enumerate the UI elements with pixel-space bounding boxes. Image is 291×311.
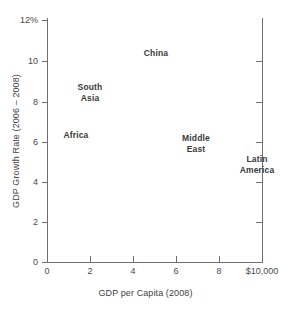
right-tick-mark-5 xyxy=(256,61,262,62)
y-tick-mark-4 xyxy=(42,102,47,103)
x-tick-label-5: $10,000 xyxy=(246,266,279,276)
right-tick-mark-1 xyxy=(256,222,262,223)
x-tick-mark-5 xyxy=(262,256,263,262)
right-axis-spine xyxy=(262,18,263,263)
y-tick-label-1: 2 xyxy=(33,218,38,227)
y-tick-label-3: 6 xyxy=(33,138,38,147)
x-axis-title: GDP per Capita (2008) xyxy=(0,288,291,298)
x-tick-label-0: 0 xyxy=(44,266,49,276)
data-label-africa: Africa xyxy=(64,130,89,141)
data-label-south-asia: South Asia xyxy=(78,82,103,103)
y-tick-label-6: 12% xyxy=(20,16,38,25)
right-tick-mark-3 xyxy=(256,142,262,143)
x-tick-mark-4 xyxy=(219,256,220,262)
y-tick-mark-6 xyxy=(42,20,47,21)
y-tick-label-2: 4 xyxy=(33,178,38,187)
y-axis-title: GDP Growth Rate (2006 – 2008) xyxy=(11,41,21,241)
y-tick-mark-0 xyxy=(42,262,47,263)
y-tick-label-5: 10 xyxy=(28,57,38,66)
x-tick-label-2: 4 xyxy=(130,266,135,276)
y-tick-mark-2 xyxy=(42,182,47,183)
y-tick-mark-5 xyxy=(42,61,47,62)
scatter-chart: 0 2 4 6 8 10 12% 0 2 4 6 8 $10,000 Afric… xyxy=(0,0,291,311)
x-tick-label-1: 2 xyxy=(87,266,92,276)
x-tick-label-4: 8 xyxy=(216,266,221,276)
y-tick-mark-1 xyxy=(42,222,47,223)
y-tick-mark-3 xyxy=(42,142,47,143)
right-tick-mark-2 xyxy=(256,182,262,183)
data-label-middle-east: Middle East xyxy=(182,133,210,154)
x-tick-mark-3 xyxy=(176,256,177,262)
data-label-latin-america: Latin America xyxy=(240,154,275,175)
y-axis-spine xyxy=(47,18,48,263)
x-axis-spine xyxy=(47,262,263,263)
x-tick-label-3: 6 xyxy=(173,266,178,276)
x-tick-mark-1 xyxy=(90,256,91,262)
y-tick-label-0: 0 xyxy=(33,258,38,267)
x-tick-mark-2 xyxy=(133,256,134,262)
data-label-china: China xyxy=(144,48,168,59)
x-tick-mark-0 xyxy=(47,256,48,262)
y-tick-label-4: 8 xyxy=(33,98,38,107)
right-tick-mark-4 xyxy=(256,102,262,103)
